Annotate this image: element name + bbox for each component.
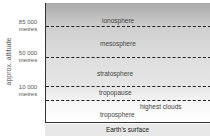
- layer-tropopause: tropopause: [99, 89, 132, 96]
- annotation-highest-clouds: highest clouds: [140, 103, 182, 110]
- y-axis-label: approx. altitude: [5, 32, 12, 92]
- layer-stratosphere: stratosphere: [97, 70, 133, 77]
- tick-10000: 10 000 metres: [14, 84, 42, 98]
- tick-50000: 50 000 metres: [14, 50, 42, 64]
- tick-value: 85 000: [14, 19, 42, 26]
- tick-85000: 85 000 metres: [14, 19, 42, 33]
- boundary-10000: [46, 86, 210, 87]
- atmosphere-column: ionosphere mesosphere stratosphere tropo…: [45, 3, 210, 123]
- earth-surface: Earth's surface: [45, 124, 210, 136]
- tick-value: 10 000: [14, 84, 42, 91]
- tick-value: 50 000: [14, 50, 42, 57]
- layer-ionosphere: ionosphere: [102, 17, 134, 24]
- tick-unit: metres: [14, 57, 42, 64]
- tick-unit: metres: [14, 91, 42, 98]
- boundary-50000: [46, 57, 210, 58]
- boundary-85000: [46, 26, 210, 27]
- tick-unit: metres: [14, 26, 42, 33]
- boundary-tropopause: [46, 100, 210, 101]
- layer-troposphere: troposphere: [100, 111, 135, 118]
- layer-mesosphere: mesosphere: [100, 40, 136, 47]
